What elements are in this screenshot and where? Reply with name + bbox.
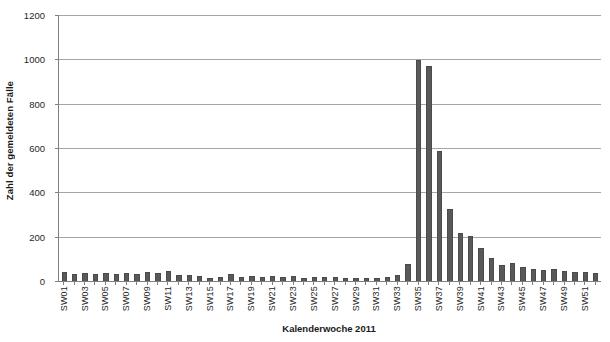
x-tick-label: SW37 xyxy=(434,286,444,311)
plot-area: 020040060080010001200 xyxy=(58,15,601,281)
x-tick-mark xyxy=(355,281,356,285)
x-tick-label: SW17 xyxy=(225,286,235,311)
x-tick-mark xyxy=(511,281,512,285)
x-tick-label: SW43 xyxy=(496,286,506,311)
x-tick-mark xyxy=(261,281,262,285)
bar xyxy=(551,269,556,281)
x-tick-mark xyxy=(397,281,398,285)
bar xyxy=(124,273,129,281)
bar xyxy=(572,272,577,281)
bar xyxy=(510,263,515,281)
x-tick-mark xyxy=(470,281,471,285)
bar-series xyxy=(59,15,601,281)
bar xyxy=(489,258,494,281)
x-tick-label: SW47 xyxy=(538,286,548,311)
x-tick-mark xyxy=(543,281,544,285)
x-tick-mark xyxy=(334,281,335,285)
bar xyxy=(103,273,108,281)
y-tick-label: 0 xyxy=(1,276,45,287)
x-tick-label: SW07 xyxy=(121,286,131,311)
x-tick-mark xyxy=(115,281,116,285)
x-tick-mark xyxy=(407,281,408,285)
x-tick-mark xyxy=(94,281,95,285)
x-axis-title: Kalenderwoche 2011 xyxy=(58,323,600,334)
x-tick-mark xyxy=(157,281,158,285)
x-tick-mark xyxy=(491,281,492,285)
x-tick-mark xyxy=(178,281,179,285)
y-tick-label: 1200 xyxy=(1,10,45,21)
x-tick-mark xyxy=(376,281,377,285)
x-tick-label: SW11 xyxy=(163,286,173,311)
x-tick-mark xyxy=(365,281,366,285)
x-tick-label: SW03 xyxy=(80,286,90,311)
bar xyxy=(416,60,421,281)
x-tick-label: SW09 xyxy=(142,286,152,311)
x-tick-mark xyxy=(480,281,481,285)
bar xyxy=(499,265,504,281)
x-tick-label: SW51 xyxy=(580,286,590,311)
y-tick-label: 600 xyxy=(1,143,45,154)
x-tick-mark xyxy=(188,281,189,285)
y-tick-label: 1000 xyxy=(1,54,45,65)
x-tick-label: SW05 xyxy=(100,286,110,311)
x-tick-label: SW49 xyxy=(559,286,569,311)
x-tick-label: SW45 xyxy=(517,286,527,311)
x-tick-mark xyxy=(126,281,127,285)
bar xyxy=(114,274,119,281)
x-tick-mark xyxy=(449,281,450,285)
x-tick-label: SW01 xyxy=(59,286,69,311)
bar xyxy=(541,270,546,281)
bar xyxy=(82,273,87,281)
x-tick-mark xyxy=(501,281,502,285)
x-tick-mark xyxy=(105,281,106,285)
x-tick-mark xyxy=(272,281,273,285)
x-tick-mark xyxy=(303,281,304,285)
x-tick-label: SW31 xyxy=(371,286,381,311)
x-tick-mark xyxy=(84,281,85,285)
x-tick-mark xyxy=(74,281,75,285)
x-tick-label: SW33 xyxy=(392,286,402,311)
x-tick-label: SW25 xyxy=(309,286,319,311)
x-tick-label: SW29 xyxy=(351,286,361,311)
x-tick-mark xyxy=(313,281,314,285)
x-tick-mark xyxy=(147,281,148,285)
bar xyxy=(478,248,483,281)
bar xyxy=(583,272,588,281)
x-tick-mark xyxy=(230,281,231,285)
x-tick-mark xyxy=(418,281,419,285)
bar xyxy=(72,274,77,281)
x-axis-tick-labels: SW01SW03SW05SW07SW09SW11SW13SW15SW17SW19… xyxy=(58,286,600,320)
x-tick-mark xyxy=(240,281,241,285)
x-tick-mark xyxy=(136,281,137,285)
x-tick-mark xyxy=(293,281,294,285)
bar xyxy=(145,272,150,281)
x-tick-mark xyxy=(459,281,460,285)
x-tick-mark xyxy=(522,281,523,285)
bar xyxy=(593,273,598,281)
x-tick-mark xyxy=(324,281,325,285)
x-tick-mark xyxy=(428,281,429,285)
x-tick-label: SW15 xyxy=(205,286,215,311)
x-tick-mark xyxy=(199,281,200,285)
x-tick-label: SW13 xyxy=(184,286,194,311)
x-tick-label: SW23 xyxy=(288,286,298,311)
x-tick-mark xyxy=(386,281,387,285)
bar xyxy=(405,264,410,281)
x-tick-label: SW41 xyxy=(476,286,486,311)
bar xyxy=(62,272,67,281)
y-tick-label: 400 xyxy=(1,187,45,198)
bar xyxy=(531,269,536,281)
x-tick-mark xyxy=(574,281,575,285)
x-tick-mark xyxy=(251,281,252,285)
x-tick-label: SW39 xyxy=(455,286,465,311)
x-tick-mark xyxy=(209,281,210,285)
x-tick-mark xyxy=(63,281,64,285)
bar xyxy=(228,274,233,281)
bar xyxy=(134,274,139,281)
bar xyxy=(93,274,98,281)
bar xyxy=(155,273,160,281)
x-tick-label: SW19 xyxy=(246,286,256,311)
bar xyxy=(166,271,171,281)
x-tick-mark xyxy=(345,281,346,285)
bar xyxy=(437,151,442,281)
